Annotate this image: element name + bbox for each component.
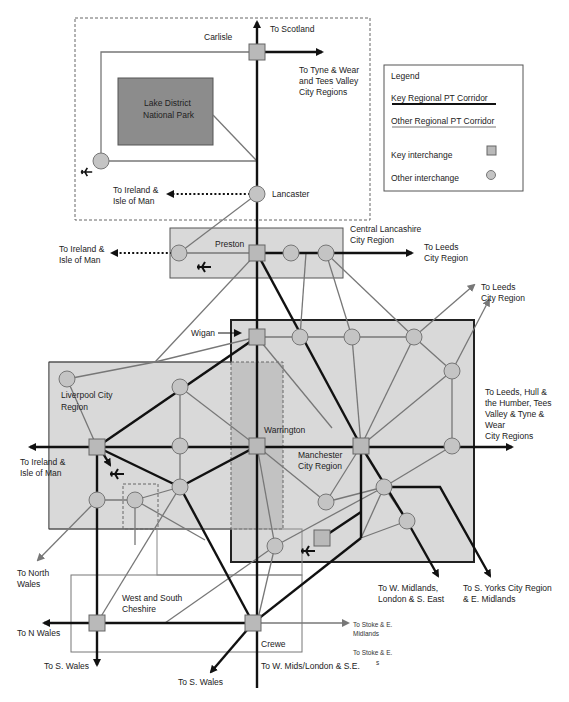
to-leeds-hull-label-3: Valley & Tyne & [485,409,545,419]
liverpool-mid-interchange[interactable] [172,438,188,454]
airplane-icon [81,168,92,176]
legend-key-interchange-label: Key interchange [391,150,453,160]
central-lancs-interchange-2[interactable] [318,245,334,261]
to-north-wales-label-2: Wales [17,579,40,589]
central-lancs-interchange-1[interactable] [283,245,299,261]
wigan-label: Wigan [191,328,215,338]
crewe-label: Crewe [261,639,286,649]
west-cumbria-interchange[interactable] [93,153,109,169]
to-n-wales-label: To N Wales [17,628,60,638]
to-w-midlands-london-label-1: To W. Midlands, [378,583,438,593]
to-leeds-hull-label-5: City Regions [485,431,533,441]
wirral-interchange[interactable] [89,492,105,508]
crewe-interchange[interactable] [245,615,261,631]
west-south-cheshire-label-1: West and South [122,593,183,603]
manchester-southwest-interchange[interactable] [267,538,283,554]
preston-interchange[interactable] [249,245,265,261]
legend-other-corridor-label: Other Regional PT Corridor [391,116,494,126]
southport-interchange[interactable] [59,371,75,387]
runcorn-interchange[interactable] [172,479,188,495]
manchester-north-interchange-2[interactable] [344,329,360,345]
manchester-east-interchange-2[interactable] [444,438,460,454]
to-stoke-label-2b: s [376,659,380,666]
to-s-wales-crewe-label: To S. Wales [178,677,223,687]
lake-district-label-2: National Park [143,110,195,120]
manchester-airport-interchange[interactable] [314,530,330,546]
liverpool-interchange[interactable] [89,439,105,455]
lancaster-label: Lancaster [272,189,309,199]
warrington-interchange[interactable] [249,438,265,454]
legend: Legend Key Regional PT Corridor Other Re… [384,65,523,191]
lake-district-label: Lake District [144,98,191,108]
manchester-north-interchange-3[interactable] [406,329,422,345]
wigan-interchange[interactable] [249,329,265,345]
regional-pt-network-diagram: Legend Key Regional PT Corridor Other Re… [0,0,569,702]
to-stoke-label-2a: To Stoke & E. [353,649,393,656]
manchester-interchange[interactable] [353,438,369,454]
legend-other-interchange-label: Other interchange [391,173,459,183]
to-ireland-preston-label-1: To Ireland & [59,244,105,254]
legend-key-corridor-label: Key Regional PT Corridor [391,93,488,103]
to-tyne-wear-label-2: and Tees Valley [299,76,359,86]
to-leeds-preston-label-2: City Region [424,253,468,263]
blackpool-interchange[interactable] [171,245,187,261]
manchester-label-1: Manchester [298,450,343,460]
west-south-cheshire-label-2: Cheshire [122,604,156,614]
cheshire-west-interchange[interactable] [89,615,105,631]
liverpool-north-interchange[interactable] [172,379,188,395]
carlisle-interchange[interactable] [249,44,265,60]
to-ireland-lancaster-label-2: Isle of Man [113,196,155,206]
to-s-yorks-label-1: To S. Yorks City Region [463,583,552,593]
to-ireland-lancaster-label-1: To Ireland & [113,185,159,195]
central-lancashire-label-1: Central Lancashire [350,224,422,234]
to-w-midlands-london-label-2: London & S. East [378,594,445,604]
liverpool-label-1: Liverpool City [61,390,113,400]
to-stoke-label-1a: To Stoke & E. [353,621,393,628]
to-tyne-wear-label-3: City Regions [299,87,347,97]
legend-key-interchange-swatch [487,146,496,155]
to-s-yorks-label-2: & E. Midlands [463,594,515,604]
to-stoke-label-1b: Midlands [353,630,380,637]
manchester-label-2: City Region [298,461,342,471]
to-s-wales-west-label: To S. Wales [44,661,89,671]
to-leeds-hull-label-1: To Leeds, Hull & [485,387,547,397]
manchester-east-interchange-1[interactable] [444,363,460,379]
to-north-wales-label-1: To North [17,568,49,578]
to-ireland-liverpool-label-2: Isle of Man [20,468,62,478]
to-leeds-preston-label-1: To Leeds [424,242,459,252]
to-leeds-hull-label-4: Wear [485,420,505,430]
chester-area-interchange[interactable] [127,492,143,508]
warrington-label: Warrington [264,425,306,435]
to-leeds-hull-label-2: the Humber, Tees [485,398,551,408]
to-scotland-label: To Scotland [270,24,315,34]
stockport-interchange[interactable] [376,479,392,495]
lancaster-interchange[interactable] [249,186,265,202]
to-ireland-preston-label-2: Isle of Man [59,255,101,265]
to-leeds-manchester-label-2: City Region [481,293,525,303]
legend-title: Legend [391,71,420,81]
liverpool-label-2: Region [61,402,88,412]
to-tyne-wear-label-1: To Tyne & Wear [299,65,359,75]
manchester-south-interchange-1[interactable] [318,494,334,510]
to-ireland-liverpool-label-1: To Ireland & [20,457,66,467]
carlisle-label: Carlisle [204,32,233,42]
preston-label: Preston [215,239,245,249]
manchester-southeast-interchange[interactable] [399,513,415,529]
manchester-north-interchange-1[interactable] [292,329,308,345]
central-lancashire-label-2: City Region [350,235,394,245]
to-w-mids-london-se-crewe-label: To W. Mids/London & S.E. [261,661,360,671]
legend-other-interchange-swatch [487,171,496,180]
to-leeds-manchester-label-1: To Leeds [481,282,516,292]
